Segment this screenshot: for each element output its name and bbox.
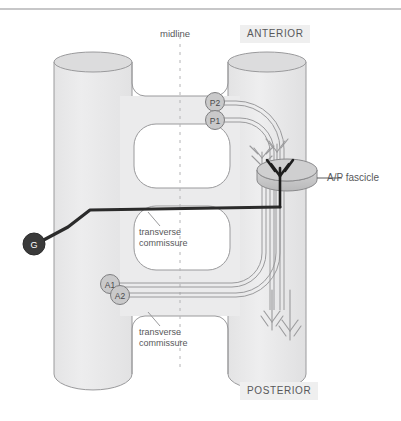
figure-canvas: G P2 P1 A1 A2 midline ANTERIOR POSTERIOR… (0, 0, 401, 421)
g-neuron-label: G (30, 240, 37, 250)
ap-fascicle-ring (257, 159, 317, 191)
p2-node-label: P2 (210, 98, 221, 108)
commissure-lower-line-2: commissure (139, 338, 188, 349)
left-cord-top-cap (54, 52, 132, 72)
nerve-cord-diagram: G P2 P1 A1 A2 (0, 0, 401, 421)
p1-node-label: P1 (210, 116, 221, 126)
p1-node-group[interactable]: P1 (206, 111, 225, 130)
commissure-upper-line-2: commissure (139, 238, 188, 249)
a2-node-group[interactable]: A2 (111, 286, 130, 305)
ap-fascicle-label: A/P fascicle (327, 172, 379, 183)
commissure-upper-line-1: transverse (139, 227, 188, 238)
commissure-lower-line-1: transverse (139, 327, 188, 338)
p2-node-group[interactable]: P2 (206, 93, 225, 112)
anterior-label: ANTERIOR (240, 25, 310, 43)
midline-label: midline (160, 28, 190, 39)
fenestration-upper (134, 124, 230, 188)
right-cord-top-cap (228, 52, 306, 72)
transverse-commissure-upper-label: transverse commissure (139, 227, 188, 249)
transverse-commissure-lower-label: transverse commissure (139, 327, 188, 349)
posterior-label: POSTERIOR (240, 382, 318, 400)
a2-node-label: A2 (115, 291, 126, 301)
